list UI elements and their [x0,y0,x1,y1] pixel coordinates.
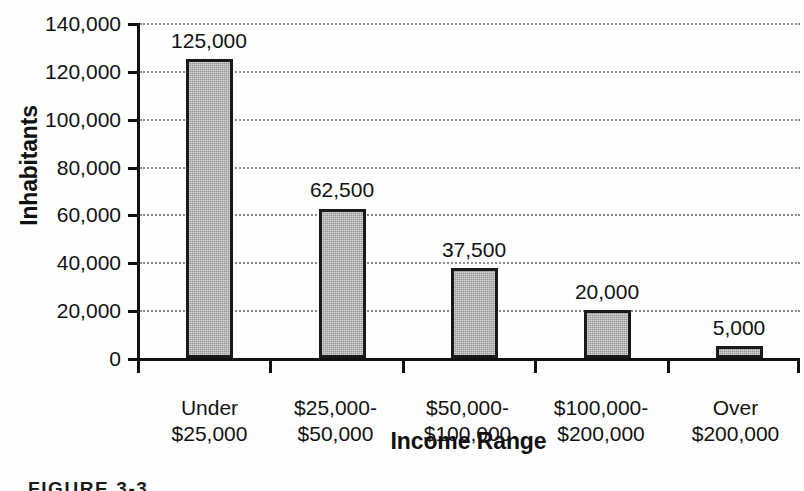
gridline-80000 [140,167,800,169]
gridline-40000 [140,262,800,264]
y-tick-140000 [128,23,140,26]
bar-value-50000-100000: 37,500 [424,239,524,260]
x-category-label-0-line-1: Under [144,395,275,421]
x-category-label-2-line-1: $50,000- [402,395,533,421]
bar-100000-200000 [584,310,631,358]
y-tick-100000 [128,119,140,122]
gridline-120000 [140,71,800,73]
y-tick-label-100000: 100,000 [0,109,121,130]
bar-value-over-200000: 5,000 [689,317,789,338]
bar-chart-figure: Inhabitants 140,000 120,000 100,000 80,0… [0,0,804,491]
y-tick-60000 [128,214,140,217]
y-tick-label-20000: 20,000 [0,300,121,321]
x-tick-3 [534,360,537,373]
x-axis-line [129,358,800,361]
x-tick-2 [402,360,405,373]
plot-area: 140,000 120,000 100,000 80,000 60,000 40… [137,23,800,360]
bar-50000-100000 [451,268,498,358]
figure-caption: FIGURE 3-3 [28,478,149,491]
x-category-label-3-line-1: $100,000- [534,395,668,421]
gridline-60000 [140,214,800,216]
bar-value-25000-50000: 62,500 [292,179,392,200]
y-tick-label-0: 0 [0,348,121,369]
bar-under-25000 [186,59,233,358]
x-tick-1 [269,360,272,373]
y-tick-label-60000: 60,000 [0,204,121,225]
bar-over-200000 [716,346,763,358]
bar-value-under-25000: 125,000 [159,30,259,51]
y-tick-120000 [128,71,140,74]
y-tick-20000 [128,310,140,313]
y-tick-label-140000: 140,000 [0,13,121,34]
y-tick-label-80000: 80,000 [0,157,121,178]
y-tick-40000 [128,262,140,265]
y-tick-label-120000: 120,000 [0,61,121,82]
x-tick-0 [137,360,140,373]
x-tick-5 [797,360,800,373]
y-tick-80000 [128,167,140,170]
y-tick-label-40000: 40,000 [0,252,121,273]
gridline-100000 [140,119,800,121]
bar-value-100000-200000: 20,000 [557,281,657,302]
x-category-label-4-line-1: Over [670,395,801,421]
x-axis-title: Income Range [137,428,800,455]
gridline-140000 [140,23,800,25]
bar-25000-50000 [319,209,366,359]
x-tick-4 [667,360,670,373]
x-category-label-1-line-1: $25,000- [270,395,401,421]
